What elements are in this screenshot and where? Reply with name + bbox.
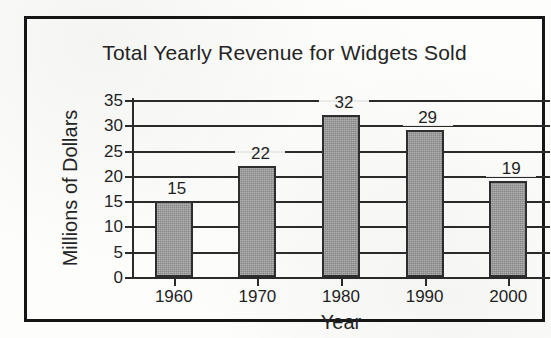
bar-value-label: 19 <box>486 160 536 177</box>
x-axis-label: Year <box>132 311 550 334</box>
x-axis-tick-label: 1990 <box>406 287 444 307</box>
y-axis-tick-label: 35 <box>83 92 123 109</box>
y-axis-tick-label: 25 <box>83 142 123 159</box>
bar-value-label: 29 <box>403 109 453 126</box>
y-axis-tick-labels: 35302520151050 <box>79 19 123 319</box>
page-background: Total Yearly Revenue for Widgets Sold Mi… <box>0 0 551 338</box>
x-axis-tick <box>257 277 259 286</box>
y-axis-label-text: Millions of Dollars <box>60 110 80 267</box>
y-axis-tick-label: 15 <box>83 193 123 210</box>
y-axis-tick <box>125 201 133 203</box>
bar <box>155 201 193 277</box>
y-axis-tick-label: 5 <box>83 243 123 260</box>
y-axis-tick <box>125 151 133 153</box>
x-axis-tick <box>508 277 510 286</box>
y-axis-tick <box>125 125 133 127</box>
x-axis-tick <box>174 277 176 286</box>
x-axis-tick <box>425 277 427 286</box>
y-axis-tick <box>125 226 133 228</box>
bar-value-label: 22 <box>235 145 285 162</box>
y-axis-tick-label: 10 <box>83 218 123 235</box>
bar-value-label: 15 <box>152 180 202 197</box>
bar-value-label: 32 <box>319 94 369 111</box>
y-axis-tick <box>125 100 133 102</box>
x-axis-tick-label: 1970 <box>238 287 276 307</box>
y-axis-tick <box>125 252 133 254</box>
plot-area: 1522322919 <box>132 100 550 277</box>
x-axis-tick-label: 1960 <box>155 287 193 307</box>
chart-frame-border: Total Yearly Revenue for Widgets Sold Mi… <box>24 16 545 322</box>
y-axis-tick-label: 30 <box>83 117 123 134</box>
y-axis-tick-label: 0 <box>83 269 123 286</box>
y-axis-tick <box>125 176 133 178</box>
x-axis-tick-label: 2000 <box>489 287 527 307</box>
bar-chart-figure: Total Yearly Revenue for Widgets Sold Mi… <box>27 19 542 319</box>
bar <box>489 181 527 277</box>
x-axis-ticks <box>132 277 550 287</box>
bar <box>238 166 276 277</box>
bar <box>406 130 444 277</box>
bar <box>322 115 360 277</box>
y-axis-tick-label: 20 <box>83 167 123 184</box>
x-axis-tick-label: 1980 <box>322 287 360 307</box>
x-axis-tick <box>341 277 343 286</box>
y-axis-tick <box>125 277 133 279</box>
